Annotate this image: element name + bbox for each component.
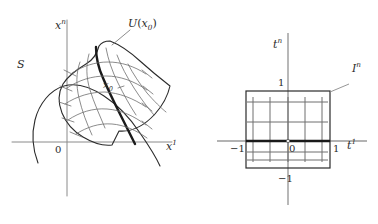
standard-cube-panel: tn t1 0 In 1 1 −1 −1 — [189, 0, 378, 224]
cube-leader-line — [330, 84, 349, 92]
origin-label-right: 0 — [289, 144, 295, 154]
point-label-x0: x0 — [103, 80, 113, 93]
surface-label-s: S — [17, 59, 25, 70]
tick-label-top: 1 — [278, 78, 284, 88]
surface-chart-panel: xn x1 0 S U(x0) x0 — [0, 0, 189, 224]
point-x0-tick — [118, 86, 124, 88]
neighborhood-leader-line — [112, 30, 130, 45]
axis-label-xn: xn — [55, 18, 66, 31]
axis-label-t1: t1 — [347, 138, 356, 151]
standard-cube-svg — [189, 0, 378, 224]
math-figure: xn x1 0 S U(x0) x0 — [0, 0, 378, 224]
axis-label-x1: x1 — [166, 139, 177, 152]
neighborhood-label-u: U(x0) — [128, 18, 157, 31]
axis-label-tn: tn — [273, 37, 282, 50]
origin-label-left: 0 — [55, 145, 61, 155]
tick-label-left: −1 — [230, 144, 245, 154]
highlighted-coordinate-curve — [96, 47, 135, 144]
tick-label-right: 1 — [333, 144, 339, 154]
surface-chart-svg — [0, 0, 189, 224]
cube-label-in: In — [352, 61, 361, 74]
tick-label-bottom: −1 — [278, 174, 293, 184]
